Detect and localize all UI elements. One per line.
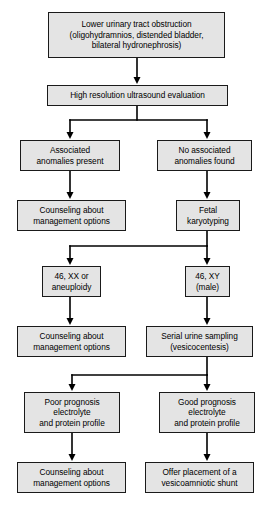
node-lower-urinary-tract-obstruction: Lower urinary tract obstruction (oligohy… xyxy=(48,12,225,58)
arrowhead-arrow-to-xy-male xyxy=(204,258,211,265)
node-serial-urine-sampling-vesicocentesis: Serial urine sampling (vesicocentesis) xyxy=(146,326,253,357)
arrowhead-arrow-to-counseling-3 xyxy=(69,454,76,461)
arrowhead-arrow-to-counseling-2 xyxy=(67,318,74,325)
node-46-xy-male: 46, XY (male) xyxy=(185,266,230,297)
arrowhead-arrow-to-shunt xyxy=(204,454,211,461)
arrowhead-arrow-to-ultrasound xyxy=(134,77,141,84)
arrowhead-arrow-to-no-anomalies xyxy=(204,132,211,139)
node-fetal-karyotyping: Fetal karyotyping xyxy=(176,200,240,231)
node-counseling-about-management-options-2: Counseling about management options xyxy=(17,326,126,357)
arrowhead-arrow-to-xx-aneuploidy xyxy=(67,258,74,265)
arrowhead-arrow-to-poor-prognosis xyxy=(69,384,76,391)
node-offer-placement-of-a-vesicoamniotic-shunt: Offer placement of a vesicoamniotic shun… xyxy=(145,462,254,493)
node-counseling-about-management-options-1: Counseling about management options xyxy=(17,200,126,231)
arrowhead-arrow-to-serial-urine xyxy=(204,318,211,325)
flowchart-diagram: Lower urinary tract obstruction (oligohy… xyxy=(0,0,264,505)
node-46-xx-or-aneuploidy: 46, XX or aneuploidy xyxy=(42,266,101,297)
arrowhead-arrow-to-good-prognosis xyxy=(204,384,211,391)
node-associated-anomalies-present: Associated anomalies present xyxy=(20,140,120,171)
arrowhead-arrow-to-anomalies-present xyxy=(67,132,74,139)
node-counseling-about-management-options-3: Counseling about management options xyxy=(17,462,126,493)
node-high-resolution-ultrasound-evaluation: High resolution ultrasound evaluation xyxy=(47,85,228,106)
node-no-associated-anomalies-found: No associated anomalies found xyxy=(157,140,252,171)
arrowhead-arrow-to-counseling-1 xyxy=(67,192,74,199)
node-poor-prognosis-electrolyte-and-protein-profile: Poor prognosis electrolyte and protein p… xyxy=(24,392,120,433)
node-good-prognosis-electrolyte-and-protein-profile: Good prognosis electrolyte and protein p… xyxy=(159,392,255,433)
arrowhead-arrow-to-karyotyping xyxy=(204,192,211,199)
